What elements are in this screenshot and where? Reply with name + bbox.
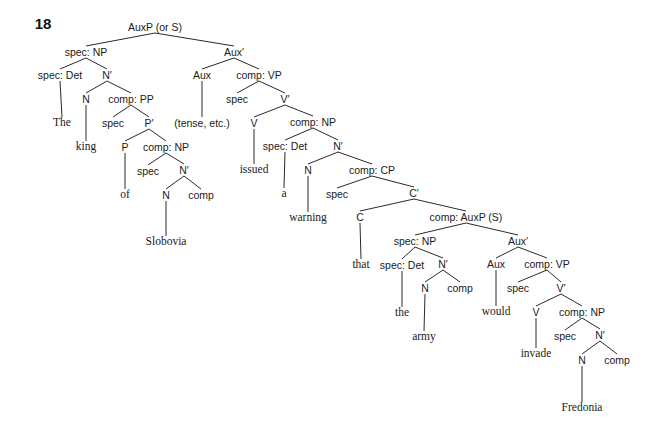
tree-edges bbox=[0, 0, 663, 434]
tree-node-label: comp: NP bbox=[143, 142, 189, 153]
tree-node-label: N′ bbox=[333, 141, 343, 152]
tree-node-label: spec: NP bbox=[65, 47, 108, 58]
tree-node-label: N′ bbox=[102, 70, 112, 81]
tree-node-label: N bbox=[162, 190, 170, 201]
tree-branch bbox=[443, 270, 460, 282]
tree-leaf-word: The bbox=[53, 117, 71, 129]
tree-node-label: comp: NP bbox=[290, 117, 336, 128]
tree-branch bbox=[60, 58, 86, 69]
tree-node-label: P′ bbox=[145, 118, 154, 129]
tree-branch bbox=[107, 81, 131, 93]
tree-branch bbox=[360, 199, 414, 211]
tree-branch bbox=[424, 294, 425, 331]
tree-branch bbox=[125, 129, 149, 141]
tree-node-label: N bbox=[421, 283, 429, 294]
tree-branch bbox=[237, 81, 259, 93]
tree-branch bbox=[372, 176, 414, 187]
tree-leaf-word: Slobovia bbox=[146, 236, 187, 248]
tree-leaf-word: king bbox=[76, 141, 96, 153]
tree-node-label: spec: Det bbox=[263, 141, 307, 152]
tree-node-label: C′ bbox=[409, 188, 419, 199]
tree-branch bbox=[402, 247, 415, 259]
tree-branch bbox=[415, 247, 443, 258]
tree-node-label: N′ bbox=[179, 165, 189, 176]
tree-branch bbox=[254, 105, 285, 117]
tree-branch bbox=[86, 81, 107, 93]
tree-branch bbox=[425, 270, 443, 282]
tree-node-label: P bbox=[121, 142, 128, 153]
tree-node-label: spec bbox=[507, 283, 529, 294]
tree-branch bbox=[285, 105, 313, 116]
tree-node-label: AuxP (or S) bbox=[128, 22, 182, 33]
tree-branch bbox=[360, 223, 361, 259]
tree-node-label: C bbox=[356, 212, 364, 223]
tree-branch bbox=[284, 152, 285, 188]
tree-branch bbox=[259, 81, 285, 93]
tree-branch bbox=[313, 128, 338, 140]
tree-node-label: spec bbox=[554, 331, 576, 342]
syntax-tree-figure: 18 AuxP (or S)spec: NPAux′spec: DetN′Aux… bbox=[0, 0, 663, 434]
tree-branch bbox=[166, 153, 184, 164]
tree-node-label: spec: NP bbox=[394, 236, 437, 247]
tree-node-label: N′ bbox=[595, 330, 605, 341]
tree-branch bbox=[285, 128, 313, 140]
tree-node-label: N bbox=[304, 165, 312, 176]
tree-node-label: Aux bbox=[487, 259, 505, 270]
tree-branch bbox=[155, 33, 234, 46]
tree-node-label: comp bbox=[447, 283, 473, 294]
tree-branch bbox=[202, 58, 234, 69]
tree-node-label: comp: CP bbox=[349, 165, 395, 176]
tree-branch bbox=[496, 247, 518, 258]
tree-branch bbox=[234, 58, 259, 69]
tree-node-label: spec: Det bbox=[38, 70, 82, 81]
tree-leaf-word: would bbox=[482, 306, 511, 318]
tree-node-label: V′ bbox=[557, 283, 566, 294]
tree-node-label: V bbox=[250, 118, 257, 129]
tree-branch bbox=[148, 153, 166, 165]
tree-branch bbox=[60, 81, 62, 117]
tree-node-label: comp bbox=[188, 190, 214, 201]
tree-branch bbox=[547, 270, 561, 282]
tree-leaf-word: that bbox=[352, 259, 369, 271]
tree-branch bbox=[582, 341, 600, 354]
tree-branch bbox=[166, 176, 184, 189]
tree-node-label: comp: VP bbox=[236, 70, 282, 81]
tree-node-label: (tense, etc.) bbox=[174, 118, 229, 129]
tree-branch bbox=[536, 294, 561, 306]
tree-node-label: V bbox=[532, 307, 539, 318]
tree-branch bbox=[113, 105, 131, 117]
tree-branch bbox=[466, 223, 518, 235]
tree-node-label: spec bbox=[226, 94, 248, 105]
tree-branch bbox=[86, 33, 155, 46]
tree-node-label: Aux′ bbox=[508, 236, 528, 247]
tree-branch bbox=[308, 152, 338, 164]
tree-node-label: N bbox=[578, 355, 586, 366]
tree-leaf-word: the bbox=[395, 307, 409, 319]
tree-node-label: comp: VP bbox=[524, 259, 570, 270]
tree-node-label: comp: PP bbox=[108, 94, 154, 105]
tree-node-label: Aux′ bbox=[224, 47, 244, 58]
tree-node-label: N bbox=[82, 94, 90, 105]
tree-branch bbox=[184, 176, 201, 189]
tree-node-label: N′ bbox=[438, 259, 448, 270]
tree-leaf-word: issued bbox=[240, 164, 269, 176]
tree-branch bbox=[582, 318, 600, 329]
tree-branch bbox=[565, 318, 582, 330]
tree-node-label: comp: NP bbox=[559, 307, 605, 318]
tree-branch bbox=[414, 199, 466, 211]
tree-leaf-word: army bbox=[412, 331, 436, 343]
tree-node-label: spec bbox=[326, 189, 348, 200]
tree-node-label: Aux bbox=[193, 70, 211, 81]
tree-branch bbox=[131, 105, 149, 117]
tree-node-label: comp bbox=[604, 355, 630, 366]
tree-branch bbox=[518, 270, 547, 282]
tree-node-label: spec bbox=[102, 118, 124, 129]
tree-node-label: comp: AuxP (S) bbox=[430, 212, 503, 223]
tree-node-label: V′ bbox=[281, 94, 290, 105]
tree-branch bbox=[86, 58, 107, 69]
tree-leaf-word: Fredonia bbox=[562, 402, 603, 414]
tree-branch bbox=[561, 294, 582, 306]
tree-branch bbox=[518, 247, 547, 258]
tree-branch bbox=[149, 129, 166, 141]
tree-branch bbox=[338, 152, 372, 164]
